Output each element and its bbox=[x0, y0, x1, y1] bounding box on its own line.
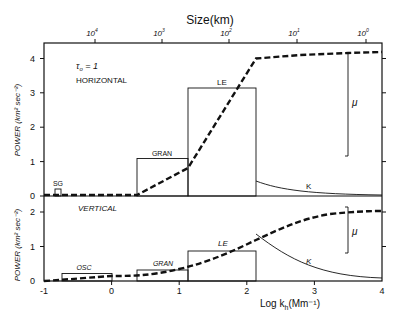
mu-bar-bottom bbox=[345, 207, 348, 253]
svg-text:0: 0 bbox=[30, 276, 35, 286]
vertical-label: VERTICAL bbox=[78, 204, 117, 213]
svg-text:101: 101 bbox=[288, 27, 300, 38]
top-axis-ticks: 104 103 102 101 100 bbox=[86, 27, 369, 43]
svg-text:-1: -1 bbox=[40, 286, 48, 296]
bottom-y-axis-title: POWER (km² sec⁻²) bbox=[13, 208, 22, 281]
svg-text:1: 1 bbox=[30, 242, 35, 252]
le-label-top: LE bbox=[217, 78, 227, 87]
dashed-curve-top bbox=[44, 52, 382, 195]
bottom-y-ticks: 0 1 2 bbox=[30, 207, 386, 286]
sg-label: SG bbox=[53, 180, 63, 187]
svg-text:102: 102 bbox=[220, 27, 232, 38]
svg-text:2: 2 bbox=[30, 207, 35, 217]
svg-text:1: 1 bbox=[177, 286, 182, 296]
dashed-curve-bottom bbox=[44, 211, 382, 281]
svg-text:4: 4 bbox=[379, 286, 384, 296]
k-label-bottom: K bbox=[306, 257, 312, 266]
gran-label-bottom: GRAN bbox=[153, 260, 174, 267]
svg-text:103: 103 bbox=[153, 27, 165, 38]
top-y-axis-title: POWER (km² sec⁻²) bbox=[13, 83, 22, 156]
le-box-top bbox=[188, 88, 256, 196]
mu-label-top: μ bbox=[351, 97, 358, 108]
svg-text:3: 3 bbox=[30, 88, 35, 98]
osc-box bbox=[62, 274, 112, 282]
k-curve-top bbox=[256, 181, 382, 195]
chart-figure: Size(km) 104 103 102 101 100 0 1 2 3 4 P… bbox=[0, 0, 405, 324]
svg-text:104: 104 bbox=[86, 27, 98, 38]
svg-text:0: 0 bbox=[30, 191, 35, 201]
top-axis-title: Size(km) bbox=[186, 13, 233, 27]
x-ticks: -1 0 1 2 3 4 bbox=[40, 281, 385, 296]
k-label-top: K bbox=[306, 182, 312, 191]
le-label-bottom: LE bbox=[218, 239, 228, 248]
svg-text:0: 0 bbox=[109, 286, 114, 296]
x-axis-title: Log kh(Mm⁻¹) bbox=[260, 298, 320, 311]
svg-text:100: 100 bbox=[357, 27, 369, 38]
svg-text:2: 2 bbox=[244, 286, 249, 296]
svg-text:2: 2 bbox=[30, 122, 35, 132]
k-curve-bottom bbox=[256, 234, 382, 278]
osc-label: OSC bbox=[76, 264, 92, 271]
mu-bar-top bbox=[345, 53, 348, 156]
tau-annotation: τo = 1 bbox=[76, 61, 98, 72]
svg-text:4: 4 bbox=[30, 54, 35, 64]
gran-label-top: GRAN bbox=[152, 150, 172, 157]
svg-text:3: 3 bbox=[312, 286, 317, 296]
svg-text:1: 1 bbox=[30, 157, 35, 167]
horizontal-label: HORIZONTAL bbox=[76, 76, 128, 85]
mu-label-bottom: μ bbox=[351, 226, 358, 237]
